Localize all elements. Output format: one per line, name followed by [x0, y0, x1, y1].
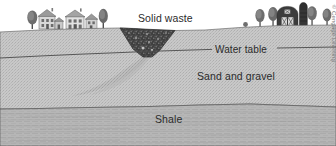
label-shale: Shale — [155, 113, 182, 125]
landfill-cross-section-figure: Solid waste Water table Sand and gravel … — [0, 0, 336, 146]
label-solid-waste: Solid waste — [138, 12, 193, 24]
shrub-icon — [243, 22, 248, 27]
label-sand-and-gravel: Sand and gravel — [197, 70, 275, 82]
copyright-credit: © Cengage Learning — [331, 5, 336, 62]
silo-icon — [300, 3, 308, 27]
label-water-table: Water table — [215, 44, 267, 55]
barn-icon — [277, 6, 298, 26]
shale-layer — [0, 104, 336, 146]
